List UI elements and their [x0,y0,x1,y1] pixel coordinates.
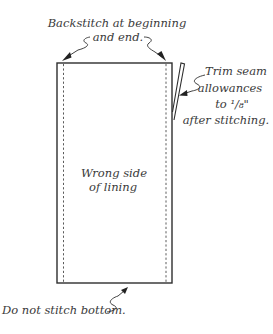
trim-label-line2: allowances [198,81,262,95]
panel-label-line2: of lining [89,180,137,194]
trim-label-line3: to ¹/₈" [215,97,249,111]
panel-label-line1: Wrong side [81,166,147,180]
trim-label-line1: Trim seam [205,64,267,78]
diagram-canvas: Backstitch at beginning and end. Trim se… [0,0,273,334]
arrow-icon [157,51,166,61]
lining-stitch-diagram: Backstitch at beginning and end. Trim se… [0,0,273,334]
trimmed-seam-allowance-strip [173,63,185,120]
bottom-label: Do not stitch bottom. [1,303,126,317]
backstitch-label-line1: Backstitch at beginning [47,16,187,30]
trim-label-line4: after stitching. [183,113,269,127]
backstitch-label-line2: and end. [93,30,144,44]
arrow-icon [179,90,188,96]
arrow-icon [62,52,72,61]
